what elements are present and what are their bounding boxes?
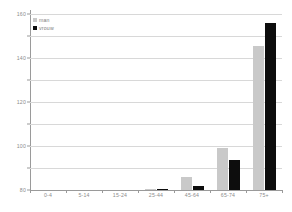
bar-group [210,14,246,190]
y-axis-tick-label: 140 [17,55,26,61]
x-axis-label: 65-74 [210,192,246,198]
legend-swatch-man-icon [33,18,37,22]
y-axis-tick-label: 120 [17,99,26,105]
bar-vrouw[interactable] [265,23,276,190]
bar-vrouw[interactable] [229,160,240,190]
bar-group [174,14,210,190]
bar-man[interactable] [145,189,156,190]
y-axis-tick-label: 80 [20,187,26,193]
bar-groups [30,14,282,190]
gridline: 0 [30,190,282,191]
bar-man[interactable] [217,148,228,190]
bar-group [30,14,66,190]
x-axis-label: 75+ [246,192,282,198]
x-axis-label: 25-44 [138,192,174,198]
x-axis-label: 45-64 [174,192,210,198]
x-axis-tick-mark [282,190,283,193]
legend: man vrouw [33,17,54,31]
legend-item-vrouw[interactable]: vrouw [33,25,54,31]
x-axis-label: 0-4 [30,192,66,198]
x-axis-label: 15-24 [102,192,138,198]
bar-vrouw[interactable] [157,189,168,190]
legend-swatch-vrouw-icon [33,26,37,30]
legend-label-man: man [39,17,50,23]
bar-chart: 020406080100120140160 0-45-1415-2425-444… [0,0,292,212]
x-axis-label: 5-14 [66,192,102,198]
y-axis-tick-label: 160 [17,11,26,17]
bar-vrouw[interactable] [193,186,204,190]
x-axis-labels: 0-45-1415-2425-4445-6465-7475+ [30,192,282,198]
bar-man[interactable] [181,177,192,190]
plot-area: 020406080100120140160 [30,14,282,190]
bar-group [246,14,282,190]
bar-man[interactable] [253,46,264,190]
legend-item-man[interactable]: man [33,17,54,23]
bar-group [66,14,102,190]
y-axis-tick-label: 100 [17,143,26,149]
bar-group [138,14,174,190]
legend-label-vrouw: vrouw [39,25,54,31]
bar-group [102,14,138,190]
